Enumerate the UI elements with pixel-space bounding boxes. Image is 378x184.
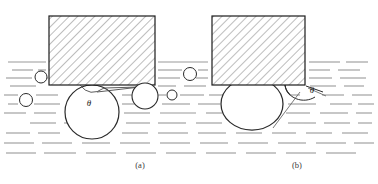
bubble-small-a-3 — [167, 90, 177, 100]
panel-a-solid-block — [49, 16, 155, 85]
theta-label-a: θ — [87, 98, 92, 108]
block-hatch — [212, 16, 305, 85]
theta-label-b: θ — [310, 85, 315, 95]
panel-a-main-bubble — [65, 85, 119, 139]
figure-container: θ (a) — [0, 0, 378, 184]
panel-a-caption: (a) — [135, 160, 145, 170]
panel-b-caption: (b) — [292, 160, 302, 170]
bubble-medium-a — [132, 83, 158, 109]
bubble-small-a-1 — [35, 71, 47, 83]
bubble-contact-angle-figure: θ (a) — [0, 0, 378, 184]
bubble-outline — [65, 85, 119, 139]
bubble-outline — [221, 78, 283, 130]
panel-b-main-bubble — [221, 78, 283, 130]
bubble-small-a-2 — [20, 94, 33, 107]
bubble-small-a-4 — [184, 68, 197, 81]
block-hatch — [49, 16, 155, 85]
panel-b-solid-block — [212, 16, 305, 85]
